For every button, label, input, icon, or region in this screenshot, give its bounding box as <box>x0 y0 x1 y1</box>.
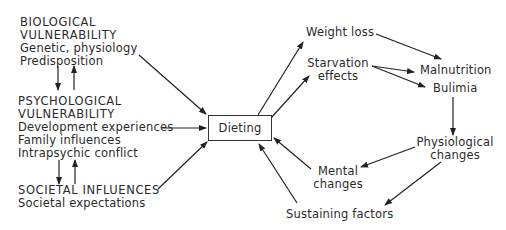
malnutrition-label: Malnutrition <box>420 64 492 77</box>
biological-item: Predisposition <box>20 55 103 68</box>
dieting-box: Dieting <box>208 115 272 141</box>
physiological-line2: changes <box>415 149 495 162</box>
dieting-label: Dieting <box>219 122 262 135</box>
arrow-physiological-to-sustaining <box>385 162 441 205</box>
starvation-line2: effects <box>307 70 369 83</box>
sustaining-factors-label: Sustaining factors <box>286 208 393 221</box>
arrow-weightloss-to-malnutrition <box>376 34 441 59</box>
arrow-mental-to-dieting <box>274 138 311 169</box>
arrow-soc-to-dieting <box>158 142 207 189</box>
societal-item: Societal expectations <box>18 197 146 210</box>
weight-loss-label: Weight loss <box>306 26 374 39</box>
arrow-dieting-to-weightloss <box>258 42 303 115</box>
arrow-bio-to-dieting <box>139 55 206 114</box>
arrow-physiological-to-mental <box>361 147 415 167</box>
bulimia-label: Bulimia <box>433 82 477 95</box>
psychological-item: Intrapsychic conflict <box>18 147 138 160</box>
mental-line2: changes <box>313 178 363 191</box>
arrow-starvation-to-bulimia <box>372 66 425 87</box>
arrow-dieting-to-starvation <box>271 76 309 118</box>
